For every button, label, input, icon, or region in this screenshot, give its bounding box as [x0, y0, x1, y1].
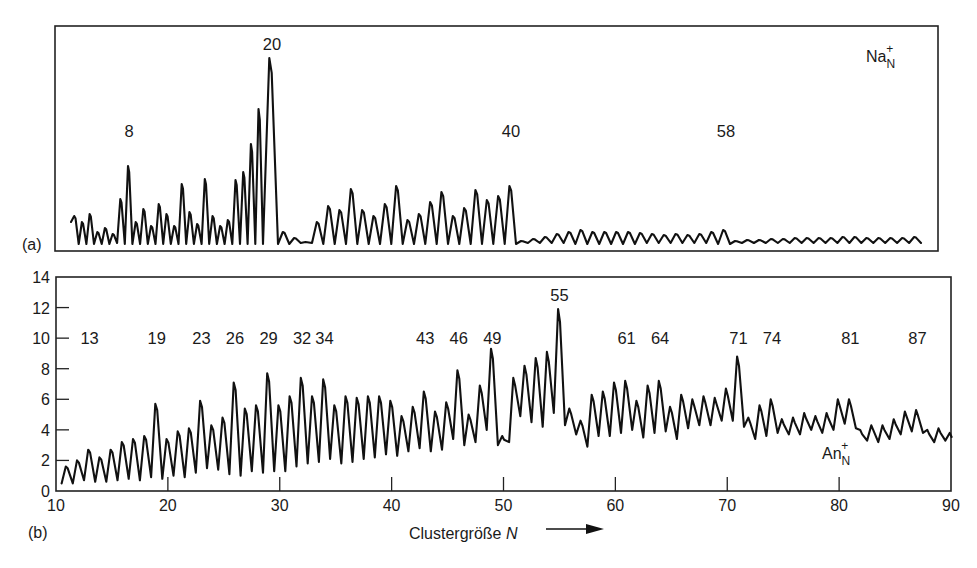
- magic-number-label: 29: [259, 329, 277, 347]
- panel-a-magic-number-labels: 8204058: [124, 35, 735, 140]
- na-spectrum-trace: [71, 58, 921, 244]
- magic-number-label: 40: [502, 122, 520, 140]
- y-tick-label: 8: [41, 361, 50, 378]
- panel-b-frame: [56, 277, 951, 491]
- y-axis-ticks: 02468101214: [32, 269, 69, 500]
- magic-number-label: 26: [226, 329, 244, 347]
- x-tick-label: 20: [159, 497, 177, 514]
- magic-number-label: 13: [80, 329, 98, 347]
- panel-b-magic-number-labels: 1319232629323443464955616471748187: [80, 286, 926, 347]
- x-tick-label: 10: [47, 497, 65, 514]
- magic-number-label: 46: [450, 329, 468, 347]
- x-axis-label: Clustergröße N: [409, 525, 518, 542]
- magic-number-label: 34: [315, 329, 333, 347]
- panel-b: 02468101214 102030405060708090 131923262…: [28, 269, 960, 542]
- y-tick-label: 6: [41, 391, 50, 408]
- magic-number-label: 87: [908, 329, 926, 347]
- x-axis-arrow-icon: [546, 524, 604, 534]
- y-tick-label: 12: [32, 300, 50, 317]
- magic-number-label: 74: [763, 329, 781, 347]
- magic-number-label: 64: [651, 329, 669, 347]
- magic-number-label: 43: [416, 329, 434, 347]
- magic-number-label: 20: [263, 35, 281, 53]
- magic-number-label: 71: [729, 329, 747, 347]
- x-tick-label: 60: [606, 497, 624, 514]
- species-label-an: AnN+: [822, 439, 850, 468]
- magic-number-label: 58: [717, 122, 735, 140]
- x-axis-ticks: 102030405060708090: [47, 477, 960, 514]
- cluster-mass-spectra-figure: 8204058 NaN+ (a) 02468101214 10203040506…: [0, 0, 977, 568]
- y-tick-label: 2: [41, 452, 50, 469]
- magic-number-label: 49: [483, 329, 501, 347]
- panel-a-tag: (a): [22, 236, 42, 253]
- magic-number-label: 19: [148, 329, 166, 347]
- magic-number-label: 32: [293, 329, 311, 347]
- x-tick-label: 90: [942, 497, 960, 514]
- y-tick-label: 14: [32, 269, 50, 286]
- magic-number-label: 81: [841, 329, 859, 347]
- x-tick-label: 80: [830, 497, 848, 514]
- species-label-na: NaN+: [866, 42, 895, 71]
- x-tick-label: 50: [495, 497, 513, 514]
- y-tick-label: 10: [32, 330, 50, 347]
- y-tick-label: 4: [41, 422, 50, 439]
- magic-number-label: 55: [550, 286, 568, 304]
- magic-number-label: 61: [617, 329, 635, 347]
- panel-b-tag: (b): [28, 524, 48, 541]
- x-tick-label: 30: [271, 497, 289, 514]
- magic-number-label: 8: [124, 122, 133, 140]
- x-tick-label: 40: [383, 497, 401, 514]
- magic-number-label: 23: [192, 329, 210, 347]
- panel-a: 8204058 NaN+ (a): [22, 26, 938, 253]
- x-tick-label: 70: [718, 497, 736, 514]
